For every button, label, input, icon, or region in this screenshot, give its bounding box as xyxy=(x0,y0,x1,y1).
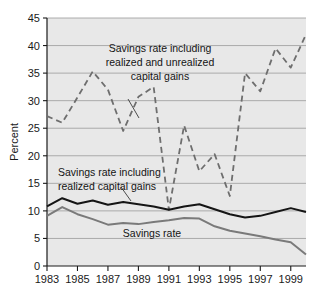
y-tick-label-15: 15 xyxy=(28,177,40,189)
annotation-unrealized-line-1: Savings rate including xyxy=(109,42,212,54)
annotation-realized-line-1: Savings rate including xyxy=(58,166,161,178)
x-tick-label-1989: 1989 xyxy=(126,273,150,285)
y-tick-label-5: 5 xyxy=(34,232,40,244)
x-tick-label-1987: 1987 xyxy=(96,273,120,285)
y-tick-label-30: 30 xyxy=(28,95,40,107)
x-tick-label-1983: 1983 xyxy=(35,273,59,285)
x-tick-label-1999: 1999 xyxy=(279,273,303,285)
chart-canvas: 051015202530354045 198319851987198919911… xyxy=(0,0,318,288)
y-tick-label-10: 10 xyxy=(28,205,40,217)
y-tick-label-20: 20 xyxy=(28,150,40,162)
y-tick-label-40: 40 xyxy=(28,40,40,52)
y-tick-label-45: 45 xyxy=(28,12,40,24)
annotation-savings-rate: Savings rate xyxy=(123,227,182,239)
x-tick-label-1997: 1997 xyxy=(248,273,272,285)
savings-rate-chart: 051015202530354045 198319851987198919911… xyxy=(0,0,318,288)
x-tick-label-1993: 1993 xyxy=(187,273,211,285)
x-tick-labels: 198319851987198919911993199519971999 xyxy=(35,273,303,285)
y-axis-title: Percent xyxy=(8,123,20,161)
x-tick-label-1985: 1985 xyxy=(65,273,89,285)
y-tick-label-0: 0 xyxy=(34,260,40,272)
annotation-unrealized-line-3: capital gains xyxy=(131,70,189,82)
annotation-unrealized-line-2: realized and unrealized xyxy=(106,56,215,68)
y-tick-label-35: 35 xyxy=(28,67,40,79)
y-tick-label-25: 25 xyxy=(28,122,40,134)
x-tick-label-1991: 1991 xyxy=(157,273,181,285)
annotation-savings-rate-line-1: Savings rate xyxy=(123,227,182,239)
x-tick-label-1995: 1995 xyxy=(218,273,242,285)
annotation-realized-line-2: realized capital gains xyxy=(58,180,156,192)
